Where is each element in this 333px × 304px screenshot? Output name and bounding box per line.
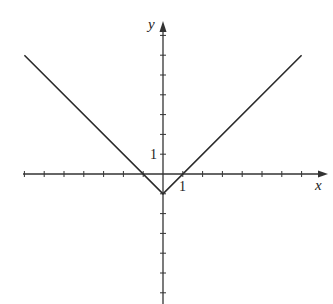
- x-tick-label-1: 1: [179, 180, 186, 194]
- function-graph: [0, 0, 333, 304]
- y-axis-arrow-icon: [160, 21, 167, 32]
- y-axis-label: y: [148, 17, 155, 32]
- x-axis-label: x: [315, 178, 322, 193]
- y-tick-label-1: 1: [150, 148, 157, 162]
- axes: [23, 21, 328, 304]
